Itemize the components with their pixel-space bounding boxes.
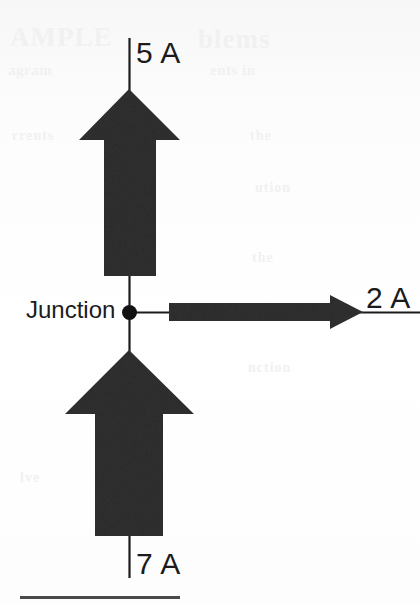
top-current-label: 5 A: [136, 38, 181, 68]
right-current-label: 2 A: [366, 283, 411, 313]
bottom-arrow-7a: [65, 350, 194, 536]
junction-dot: [122, 305, 137, 320]
right-arrow-2a: [169, 295, 363, 329]
bottom-current-label: 7 A: [136, 549, 181, 579]
figure-canvas: AMPLE blems agram ents in rrents the uti…: [0, 0, 420, 605]
junction-label: Junction: [26, 298, 115, 322]
top-arrow-5a: [79, 89, 180, 276]
